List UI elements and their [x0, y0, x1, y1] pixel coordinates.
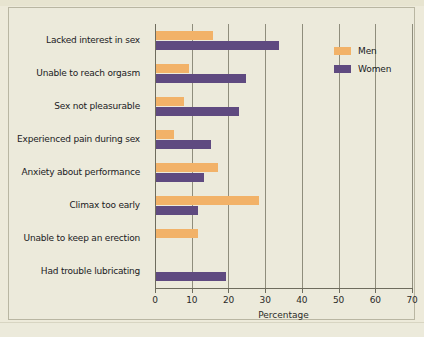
category-label-3: Experienced pain during sex — [9, 134, 140, 144]
tick-label-70: 70 — [397, 295, 424, 305]
gridline-20 — [228, 24, 229, 288]
tick-50 — [339, 288, 340, 293]
legend-swatch-men — [334, 47, 351, 55]
category-label-6: Unable to keep an erection — [9, 233, 140, 243]
bar-men-6 — [156, 229, 198, 238]
legend-label-women: Women — [358, 64, 391, 74]
chart-legend: Men Women — [334, 44, 391, 80]
x-axis-line — [155, 288, 412, 289]
legend-item-women: Women — [334, 62, 391, 76]
category-label-2: Sex not pleasurable — [9, 101, 140, 111]
bar-women-2 — [156, 107, 239, 116]
tick-60 — [375, 288, 376, 293]
bar-women-7 — [156, 272, 226, 281]
figure-top-strip — [0, 0, 424, 6]
gridline-70 — [412, 24, 413, 288]
bar-men-4 — [156, 163, 218, 172]
gridline-40 — [302, 24, 303, 288]
category-label-1: Unable to reach orgasm — [9, 68, 140, 78]
bar-men-1 — [156, 64, 189, 73]
bar-men-2 — [156, 97, 184, 106]
bar-women-4 — [156, 173, 204, 182]
x-axis-label: Percentage — [155, 310, 412, 320]
tick-label-10: 10 — [177, 295, 207, 305]
tick-40 — [302, 288, 303, 293]
bar-men-0 — [156, 31, 213, 40]
tick-label-40: 40 — [287, 295, 317, 305]
gridline-10 — [192, 24, 193, 288]
gridline-30 — [265, 24, 266, 288]
tick-label-60: 60 — [360, 295, 390, 305]
tick-label-0: 0 — [140, 295, 170, 305]
category-label-7: Had trouble lubricating — [9, 266, 140, 276]
tick-10 — [192, 288, 193, 293]
legend-label-men: Men — [358, 46, 377, 56]
chart-panel: 010203040506070 Percentage Lacked intere… — [8, 7, 415, 320]
chart-figure: 010203040506070 Percentage Lacked intere… — [0, 0, 424, 337]
bar-men-5 — [156, 196, 259, 205]
legend-item-men: Men — [334, 44, 391, 58]
tick-label-50: 50 — [324, 295, 354, 305]
legend-swatch-women — [334, 65, 351, 73]
tick-30 — [265, 288, 266, 293]
tick-70 — [412, 288, 413, 293]
bar-women-1 — [156, 74, 246, 83]
bar-women-0 — [156, 41, 279, 50]
category-label-4: Anxiety about performance — [9, 167, 140, 177]
category-label-5: Climax too early — [9, 200, 140, 210]
tick-20 — [228, 288, 229, 293]
figure-bottom-strip — [0, 322, 424, 337]
tick-label-20: 20 — [213, 295, 243, 305]
bar-men-3 — [156, 130, 174, 139]
category-label-0: Lacked interest in sex — [9, 35, 140, 45]
tick-label-30: 30 — [250, 295, 280, 305]
tick-0 — [155, 288, 156, 293]
bar-women-5 — [156, 206, 198, 215]
bar-women-3 — [156, 140, 211, 149]
